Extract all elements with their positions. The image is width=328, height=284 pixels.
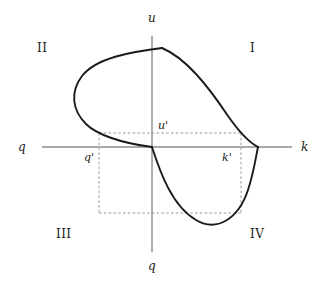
axis-label-q-left: q [18, 141, 26, 153]
quadrant-label-iv: IV [250, 228, 264, 240]
marker-label-k-prime: k' [222, 152, 232, 163]
diagram-canvas [0, 0, 328, 284]
curve-upper-left-loop [74, 48, 162, 147]
axis-label-q-bottom: q [148, 260, 156, 272]
curve-upper-right-branch [162, 48, 258, 147]
axis-label-k-right: k [301, 141, 308, 153]
quadrant-label-iii: III [56, 228, 71, 240]
quadrant-label-ii: II [37, 42, 47, 54]
quadrant-label-i: I [250, 42, 255, 54]
marker-label-q-prime: q' [84, 152, 94, 163]
axis-label-u-top: u [148, 12, 156, 24]
marker-label-u-prime: u' [158, 120, 168, 131]
